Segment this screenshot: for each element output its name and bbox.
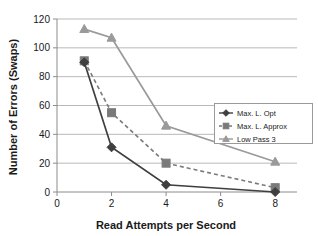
legend: Max. L. OptMax. L. ApproxLow Pass 3 xyxy=(215,104,313,145)
y-axis-tick-label: 60 xyxy=(39,100,51,111)
x-axis-tick-label: 0 xyxy=(54,198,60,209)
y-axis-tick-label: 40 xyxy=(39,129,51,140)
legend-label: Max. L. Approx xyxy=(237,122,287,131)
y-axis-tick-label: 100 xyxy=(33,42,50,53)
x-axis-tick-label: 6 xyxy=(218,198,224,209)
data-point-square-marker xyxy=(162,159,170,167)
x-axis-tick-label: 4 xyxy=(163,198,169,209)
x-axis-tick-label: 2 xyxy=(109,198,115,209)
y-axis-tick-label: 120 xyxy=(33,14,50,25)
data-point-square-marker xyxy=(108,109,116,117)
y-axis-title: Number of Errors (Swaps) xyxy=(7,39,19,176)
x-axis-title: Read Attempts per Second xyxy=(96,219,236,231)
chart-container: 020406080100120 02468 Number of Errors (… xyxy=(0,0,318,236)
legend-label: Low Pass 3 xyxy=(237,135,276,144)
y-axis-tick-label: 20 xyxy=(39,158,51,169)
data-point-square-marker xyxy=(223,123,229,129)
x-axis-tick-label: 8 xyxy=(272,198,278,209)
y-axis-tick-label: 80 xyxy=(39,71,51,82)
y-axis-tick-label: 0 xyxy=(44,187,50,198)
errors-vs-read-attempts-line-chart: 020406080100120 02468 Number of Errors (… xyxy=(0,0,318,236)
legend-label: Max. L. Opt xyxy=(237,109,277,118)
